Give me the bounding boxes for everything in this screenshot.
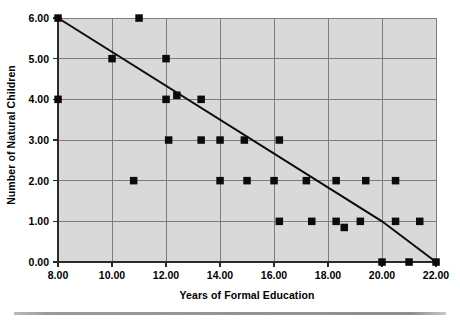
x-axis-title: Years of Formal Education [180, 289, 315, 301]
svg-text:3.00: 3.00 [29, 134, 50, 146]
scatter-plot-figure: Number of Natural Children 0.001.002.003… [0, 0, 460, 326]
svg-text:4.00: 4.00 [29, 93, 50, 105]
svg-text:8.00: 8.00 [48, 269, 69, 281]
footer-divider [14, 312, 446, 315]
x-axis-tick-labels: 8.0010.0012.0014.0016.0018.0020.0022.00 [48, 269, 450, 281]
x-axis-title-container: Years of Formal Education [58, 285, 436, 303]
svg-text:22.00: 22.00 [423, 269, 449, 281]
svg-text:14.00: 14.00 [207, 269, 233, 281]
svg-text:6.00: 6.00 [29, 12, 50, 24]
svg-text:12.00: 12.00 [153, 269, 179, 281]
svg-text:20.00: 20.00 [369, 269, 395, 281]
svg-text:1.00: 1.00 [29, 215, 50, 227]
svg-text:0.00: 0.00 [29, 256, 50, 268]
svg-text:10.00: 10.00 [99, 269, 125, 281]
svg-text:18.00: 18.00 [315, 269, 341, 281]
svg-text:16.00: 16.00 [261, 269, 287, 281]
svg-text:5.00: 5.00 [29, 53, 50, 65]
plot-canvas: 0.001.002.003.004.005.006.00 8.0010.0012… [0, 0, 460, 326]
svg-text:2.00: 2.00 [29, 175, 50, 187]
y-axis-tick-labels: 0.001.002.003.004.005.006.00 [29, 12, 50, 268]
